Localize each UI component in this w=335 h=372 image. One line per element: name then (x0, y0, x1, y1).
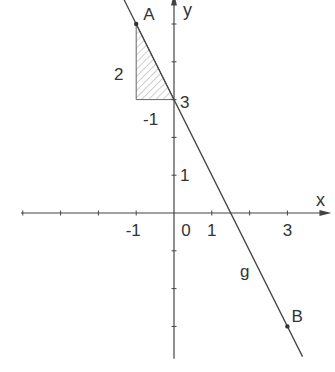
x-axis-arrow (319, 210, 331, 216)
slope-triangle-horizontal-label: -1 (143, 110, 158, 129)
x-axis-label: x (316, 190, 325, 210)
y-tick-label: 3 (180, 93, 189, 112)
point-b-label: B (291, 307, 302, 326)
x-tick-label: 3 (283, 221, 292, 240)
point-a-label: A (143, 5, 155, 24)
y-axis-arrow (171, 0, 177, 6)
x-tick-label: 0 (181, 221, 190, 240)
y-axis-label: y (183, 0, 192, 20)
slope-triangle-vertical-label: 2 (114, 65, 123, 84)
line-g-label: g (240, 262, 249, 281)
point-b (285, 324, 289, 328)
point-a (134, 22, 138, 26)
x-tick-label: -1 (126, 221, 141, 240)
coordinate-plane: 2-1-101313xygAB (0, 0, 335, 372)
x-tick-label: 1 (207, 221, 216, 240)
y-tick-label: 1 (180, 166, 189, 185)
